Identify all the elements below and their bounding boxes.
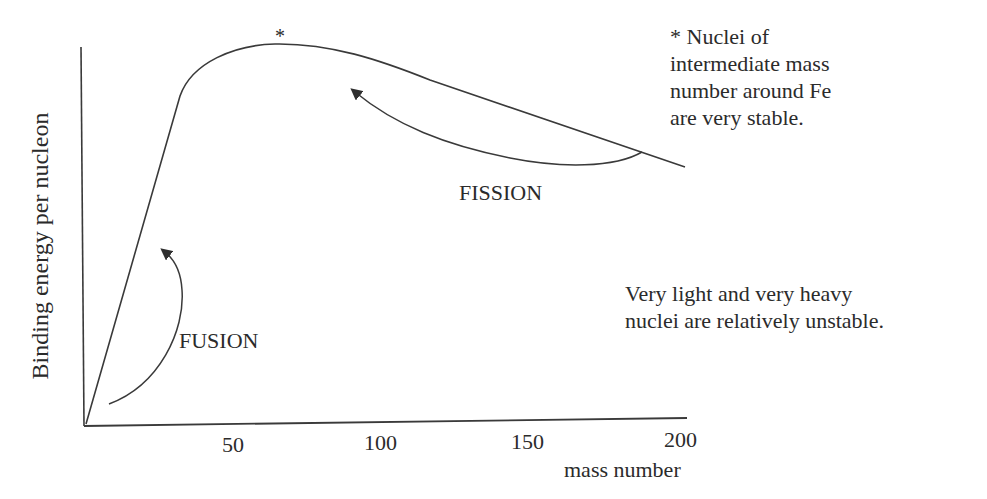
x-tick-50: 50 xyxy=(222,434,244,456)
binding-energy-curve xyxy=(86,44,685,424)
stable-note-line: intermediate mass xyxy=(670,50,930,77)
fusion-label: FUSION xyxy=(179,330,258,352)
y-axis xyxy=(81,47,84,426)
unstable-note-line: Very light and very heavy xyxy=(625,280,985,307)
stable-note-line: are very stable. xyxy=(670,104,930,131)
stable-note-line: * Nuclei of xyxy=(670,23,930,50)
x-axis xyxy=(84,418,687,426)
x-tick-100: 100 xyxy=(364,432,397,454)
unstable-nuclei-note: Very light and very heavy nuclei are rel… xyxy=(625,280,985,334)
fission-label: FISSION xyxy=(459,182,542,204)
fusion-arrow xyxy=(109,252,182,404)
peak-marker: * xyxy=(275,26,285,46)
stable-note-line: number around Fe xyxy=(670,77,930,104)
y-axis-label: Binding energy per nucleon xyxy=(27,113,54,380)
x-axis-label: mass number xyxy=(564,459,681,481)
unstable-note-line: nuclei are relatively unstable. xyxy=(625,307,985,334)
x-tick-200: 200 xyxy=(664,429,697,451)
x-tick-150: 150 xyxy=(511,431,544,453)
stable-nuclei-note: * Nuclei of intermediate mass number aro… xyxy=(670,23,930,131)
